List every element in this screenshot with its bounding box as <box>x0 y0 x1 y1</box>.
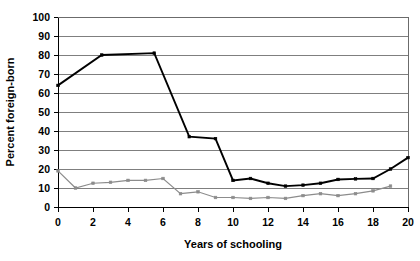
x-tick-label-0: 0 <box>55 216 61 228</box>
data-point <box>92 182 95 185</box>
data-point <box>127 179 130 182</box>
data-point <box>214 196 217 199</box>
y-tick-label-30: 30 <box>38 144 50 156</box>
x-tick-label-12: 12 <box>262 216 274 228</box>
y-tick-label-60: 60 <box>38 87 50 99</box>
data-point <box>319 192 322 195</box>
data-point <box>249 177 252 180</box>
data-point <box>153 52 156 55</box>
y-tick-label-40: 40 <box>38 125 50 137</box>
x-tick-label-18: 18 <box>367 216 379 228</box>
data-point <box>74 187 77 190</box>
data-point <box>249 197 252 200</box>
data-point <box>319 182 322 185</box>
y-tick-label-80: 80 <box>38 49 50 61</box>
x-tick-label-8: 8 <box>195 216 201 228</box>
data-point <box>232 179 235 182</box>
y-tick-label-10: 10 <box>38 182 50 194</box>
data-point <box>179 192 182 195</box>
data-point <box>284 197 287 200</box>
data-point <box>337 194 340 197</box>
line-chart: 02468101214161820 0102030405060708090100… <box>0 0 420 261</box>
y-tick-label-50: 50 <box>38 106 50 118</box>
y-tick-label-100: 100 <box>32 11 50 23</box>
x-tick-label-4: 4 <box>125 216 131 228</box>
x-tick-label-14: 14 <box>297 216 309 228</box>
data-point <box>372 177 375 180</box>
x-tick-label-10: 10 <box>227 216 239 228</box>
data-point <box>57 170 60 173</box>
y-axis-title: Percent foreign-born <box>4 57 16 166</box>
y-tick-label-0: 0 <box>44 201 50 213</box>
data-point <box>372 190 375 193</box>
x-tick-label-16: 16 <box>332 216 344 228</box>
data-point <box>354 178 357 181</box>
y-tick-label-20: 20 <box>38 163 50 175</box>
x-axis-title: Years of schooling <box>184 238 282 250</box>
data-point <box>100 54 103 57</box>
y-tick-label-70: 70 <box>38 68 50 80</box>
data-point <box>214 137 217 140</box>
data-point <box>57 84 60 87</box>
x-tick-label-6: 6 <box>160 216 166 228</box>
x-tick-label-20: 20 <box>402 216 414 228</box>
data-point <box>302 184 305 187</box>
data-point <box>197 191 200 194</box>
data-point <box>162 177 165 180</box>
chart-container: 02468101214161820 0102030405060708090100… <box>0 0 420 261</box>
y-tick-label-90: 90 <box>38 30 50 42</box>
data-point <box>389 185 392 188</box>
data-point <box>354 192 357 195</box>
data-point <box>284 185 287 188</box>
data-point <box>389 168 392 171</box>
data-point <box>267 182 270 185</box>
data-point <box>407 156 410 159</box>
data-point <box>337 178 340 181</box>
x-tick-label-2: 2 <box>90 216 96 228</box>
chart-background <box>0 0 420 261</box>
data-point <box>232 196 235 199</box>
data-point <box>188 135 191 138</box>
data-point <box>109 181 112 184</box>
data-point <box>302 194 305 197</box>
data-point <box>144 179 147 182</box>
data-point <box>267 196 270 199</box>
